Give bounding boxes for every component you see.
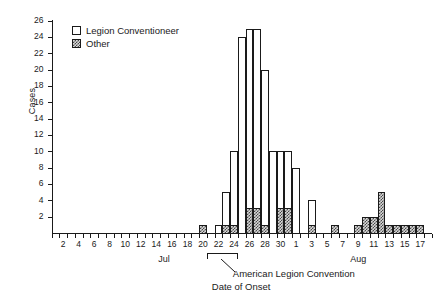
x-tick-mark	[277, 234, 278, 238]
y-tick-label: 26	[28, 16, 44, 25]
bar-segment-other	[222, 225, 230, 234]
y-tick-label: 18	[28, 81, 44, 90]
x-tick-mark	[129, 234, 130, 238]
x-tick-mark	[331, 234, 332, 238]
bar-segment-other	[308, 225, 316, 234]
x-tick-mark	[222, 234, 223, 238]
y-tick-label: 10	[28, 147, 44, 156]
bar-segment-other	[331, 225, 339, 234]
x-tick-mark	[176, 234, 177, 238]
x-tick-mark	[284, 234, 285, 238]
x-tick-mark	[308, 234, 309, 238]
bar-segment-conventioneer	[284, 151, 292, 209]
bar-segment-conventioneer	[238, 37, 246, 234]
bar-segment-conventioneer	[308, 200, 316, 226]
x-tick-mark	[424, 234, 425, 238]
bar-segment-conventioneer	[230, 151, 238, 226]
bar-segment-conventioneer	[269, 151, 277, 234]
x-tick-mark	[370, 234, 371, 238]
x-tick-mark	[145, 234, 146, 238]
x-tick-mark	[316, 234, 317, 238]
bar-segment-other	[393, 225, 401, 234]
bar-segment-other	[284, 208, 292, 234]
x-tick-mark	[354, 234, 355, 238]
bar-segment-other	[261, 225, 269, 234]
bar-segment-conventioneer	[222, 192, 230, 226]
bar-segment-other	[378, 192, 386, 234]
legend-item-other: Other	[72, 39, 179, 49]
y-tick-label: 12	[28, 130, 44, 139]
x-tick-mark	[246, 234, 247, 238]
x-tick-mark	[90, 234, 91, 238]
x-tick-mark	[409, 234, 410, 238]
convention-annotation-label: American Legion Convention	[233, 268, 355, 279]
x-tick-mark	[184, 234, 185, 238]
x-tick-mark	[253, 234, 254, 238]
bar-segment-conventioneer	[246, 29, 254, 210]
bar-segment-other	[409, 225, 417, 234]
x-tick-mark	[416, 234, 417, 238]
bracket-left-end	[207, 253, 208, 259]
x-tick-mark	[106, 234, 107, 238]
x-tick-mark	[362, 234, 363, 238]
x-tick-mark	[59, 234, 60, 238]
legend-label-other: Other	[86, 39, 110, 49]
x-tick-mark	[401, 234, 402, 238]
x-tick-mark	[432, 234, 433, 238]
x-tick-mark	[67, 234, 68, 238]
x-tick-mark	[160, 234, 161, 238]
y-tick-label: 4	[28, 196, 44, 205]
bar-segment-other	[416, 225, 424, 234]
bar-segment-other	[401, 225, 409, 234]
x-tick-mark	[261, 234, 262, 238]
x-tick-mark	[207, 234, 208, 238]
month-label-aug: Aug	[343, 254, 373, 264]
y-tick-label: 14	[28, 114, 44, 123]
x-tick-mark	[75, 234, 76, 238]
y-tick-label: 16	[28, 98, 44, 107]
x-tick-mark	[347, 234, 348, 238]
legend-swatch-conventioneer	[72, 26, 81, 35]
legend: Legion Conventioneer Other	[72, 26, 179, 51]
bar-segment-other	[277, 208, 285, 234]
y-tick-label: 22	[28, 49, 44, 58]
x-tick-mark	[378, 234, 379, 238]
x-tick-mark	[114, 234, 115, 238]
x-tick-mark	[269, 234, 270, 238]
x-tick-mark	[300, 234, 301, 238]
y-tick-label: 8	[28, 163, 44, 172]
x-tick-mark	[339, 234, 340, 238]
bar-segment-other	[230, 225, 238, 234]
x-tick-mark	[98, 234, 99, 238]
y-tick-label: 6	[28, 179, 44, 188]
bar-segment-conventioneer	[261, 70, 269, 226]
bar-segment-other	[246, 208, 254, 234]
y-tick-label: 2	[28, 212, 44, 221]
x-tick-mark	[230, 234, 231, 238]
x-tick-mark	[393, 234, 394, 238]
bar-segment-conventioneer	[277, 151, 285, 209]
bar-segment-conventioneer	[253, 29, 261, 210]
x-tick-mark	[238, 234, 239, 238]
x-tick-mark	[168, 234, 169, 238]
x-tick-mark	[152, 234, 153, 238]
x-tick-mark	[83, 234, 84, 238]
x-tick-mark	[215, 234, 216, 238]
epidemic-curve-chart: Cases 2468101214161820222426 24681012141…	[0, 0, 444, 294]
bar-segment-other	[362, 217, 370, 234]
x-tick-label: 17	[410, 240, 430, 249]
bar-segment-other	[253, 208, 261, 234]
x-tick-mark	[137, 234, 138, 238]
legend-swatch-other	[72, 39, 81, 48]
x-tick-mark	[121, 234, 122, 238]
x-tick-mark	[385, 234, 386, 238]
x-tick-mark	[191, 234, 192, 238]
x-tick-mark	[323, 234, 324, 238]
bar-segment-other	[354, 225, 362, 234]
x-tick-mark	[52, 234, 53, 238]
legend-item-conventioneer: Legion Conventioneer	[72, 26, 179, 36]
bar-segment-other	[199, 225, 207, 234]
y-tick-label: 24	[28, 32, 44, 41]
bar-segment-other	[385, 225, 393, 234]
x-axis-title: Date of Onset	[212, 281, 271, 292]
